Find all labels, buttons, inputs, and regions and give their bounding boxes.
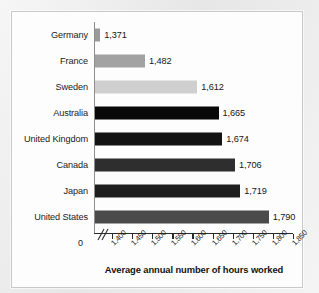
- axis-tick-label: 1,750: [250, 228, 269, 247]
- axis-tick-label: 1,700: [230, 228, 249, 247]
- bar-value-label: 1,612: [201, 82, 224, 92]
- category-label: France: [12, 56, 88, 66]
- chart-panel: Germany1,371France1,482Sweden1,612Austra…: [11, 11, 303, 288]
- bar: [95, 211, 269, 224]
- bar-row: Japan1,719: [12, 178, 304, 204]
- axis-tick-label: 1,650: [210, 228, 229, 247]
- bar-value-label: 1,706: [239, 160, 262, 170]
- bar-value-label: 1,665: [223, 108, 246, 118]
- category-label: Sweden: [12, 82, 88, 92]
- axis-tick-label: 1,550: [169, 228, 188, 247]
- bar-value-label: 1,719: [244, 186, 267, 196]
- bar-value-label: 1,790: [273, 212, 296, 222]
- category-label: United Kingdom: [12, 134, 88, 144]
- bar-chart-plot-area: Germany1,371France1,482Sweden1,612Austra…: [12, 12, 304, 289]
- axis-tick-label: 1,500: [149, 228, 168, 247]
- bar-row: United Kingdom1,674: [12, 126, 304, 152]
- bar-value-label: 1,674: [226, 134, 249, 144]
- bar-value-label: 1,482: [149, 56, 172, 66]
- bar: [95, 133, 222, 146]
- bar-row: France1,482: [12, 48, 304, 74]
- bar: [95, 159, 235, 172]
- bar: [95, 29, 100, 42]
- axis-tick-label: 1,800: [270, 228, 289, 247]
- bar: [95, 55, 145, 68]
- bar: [95, 107, 219, 120]
- bar-row: Sweden1,612: [12, 74, 304, 100]
- axis-tick-label: 1,600: [189, 228, 208, 247]
- zero-tick-label: 0: [78, 238, 83, 248]
- bar-row: United States1,790: [12, 204, 304, 230]
- bar-row: Australia1,665: [12, 100, 304, 126]
- category-label: Germany: [12, 30, 88, 40]
- bar-row: Canada1,706: [12, 152, 304, 178]
- category-label: United States: [12, 212, 88, 222]
- axis-break-icon: [96, 228, 112, 242]
- category-label: Australia: [12, 108, 88, 118]
- bar-row: Germany1,371: [12, 22, 304, 48]
- axis-tick-label: 1,450: [129, 228, 148, 247]
- category-label: Japan: [12, 186, 88, 196]
- bar-value-label: 1,371: [104, 30, 127, 40]
- bar: [95, 185, 240, 198]
- x-axis-title: Average annual number of hours worked: [88, 264, 300, 275]
- category-label: Canada: [12, 160, 88, 170]
- bar: [95, 81, 197, 94]
